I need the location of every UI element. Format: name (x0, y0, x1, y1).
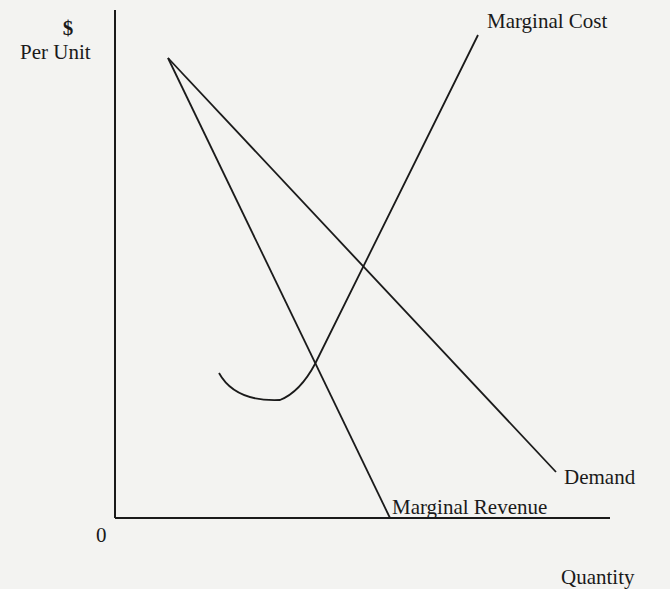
marginal-cost-curve (219, 35, 478, 400)
marginal-revenue-label: Marginal Revenue (392, 497, 547, 518)
marginal-revenue-curve (168, 58, 390, 518)
demand-curve (168, 58, 556, 472)
x-axis-label: Quantity (561, 567, 635, 588)
y-axis-label: Per Unit (20, 42, 91, 63)
origin-label: 0 (96, 525, 107, 546)
y-axis-symbol: $ (56, 18, 80, 39)
marginal-cost-label: Marginal Cost (487, 11, 607, 32)
demand-label: Demand (564, 467, 635, 488)
